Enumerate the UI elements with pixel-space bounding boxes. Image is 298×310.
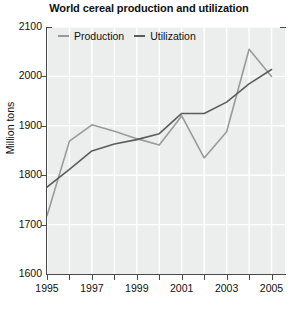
x-tick-mark [47, 275, 48, 280]
x-tick-label: 1999 [115, 283, 159, 294]
y-tick-label: 1700 [2, 219, 42, 230]
x-tick-label: 2001 [160, 283, 204, 294]
plot-area [47, 27, 285, 274]
legend-swatch-utilization [134, 35, 145, 37]
x-tick-label: 2003 [205, 283, 249, 294]
legend-item-utilization: Utilization [134, 31, 196, 42]
x-tick-label: 2005 [250, 283, 294, 294]
legend-label-utilization: Utilization [150, 31, 196, 42]
chart-legend: Production Utilization [58, 31, 196, 42]
legend-label-production: Production [74, 31, 124, 42]
y-tick-label: 1800 [2, 169, 42, 180]
y-tick-mark [41, 175, 47, 176]
x-tick-mark [92, 275, 93, 280]
chart-canvas [47, 27, 285, 274]
x-tick-mark [272, 275, 273, 280]
x-tick-mark [114, 275, 115, 280]
chart-title: World cereal production and utilization [0, 2, 298, 14]
y-axis-spine [46, 27, 47, 275]
x-tick-mark [182, 275, 183, 280]
x-tick-mark [69, 275, 70, 280]
y-tick-mark [41, 76, 47, 77]
x-tick-label: 1995 [25, 283, 69, 294]
x-tick-mark [159, 275, 160, 280]
x-tick-mark [204, 275, 205, 280]
x-tick-mark [227, 275, 228, 280]
y-tick-mark [41, 126, 47, 127]
y-tick-label: 2000 [2, 70, 42, 81]
legend-item-production: Production [58, 31, 124, 42]
x-axis-right-cap [280, 27, 286, 28]
y-tick-label: 1600 [2, 268, 42, 279]
y-tick-label: 2100 [2, 21, 42, 32]
y-tick-mark [41, 225, 47, 226]
y-tick-label: 1900 [2, 120, 42, 131]
x-tick-mark [137, 275, 138, 280]
y-axis-top-cap [46, 27, 52, 28]
legend-swatch-production [58, 35, 69, 37]
x-tick-mark [249, 275, 250, 280]
chart-figure: World cereal production and utilization … [0, 0, 298, 310]
x-tick-label: 1997 [70, 283, 114, 294]
